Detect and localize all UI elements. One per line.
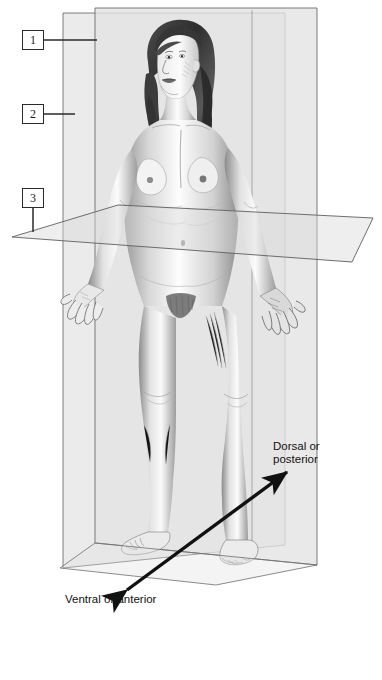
callout-box-3[interactable]: 3 (22, 188, 44, 208)
callout-number-2: 2 (30, 108, 36, 120)
callout-number-1: 1 (30, 34, 36, 46)
callout-number-3: 3 (30, 192, 36, 204)
callout-box-1[interactable]: 1 (22, 30, 44, 50)
figure-illustration (0, 0, 382, 680)
callout-box-2[interactable]: 2 (22, 104, 44, 124)
dorsal-posterior-label: Dorsal or posterior (273, 440, 320, 466)
ventral-anterior-label: Ventral or anterior (65, 593, 156, 606)
anatomy-planes-figure: 1 2 3 Dorsal or posterior Ventral or ant… (0, 0, 382, 680)
